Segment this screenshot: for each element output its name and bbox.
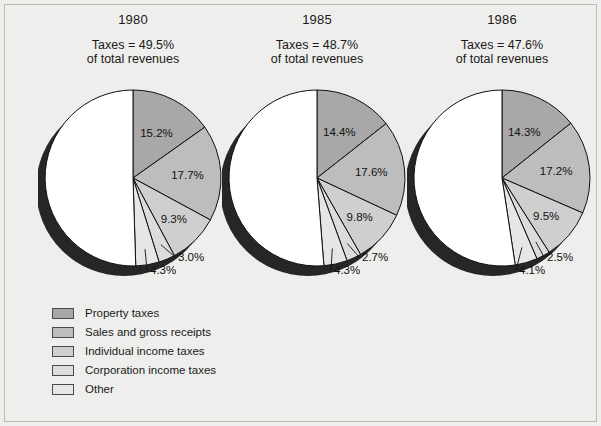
legend-swatch: [52, 327, 74, 338]
slice-value-label: 17.6%: [355, 166, 388, 178]
legend-item[interactable]: Property taxes: [52, 304, 352, 322]
panel-year-label: 1980: [38, 12, 228, 27]
panel-note-line-2: of total revenues: [38, 52, 228, 66]
legend-item[interactable]: Individual income taxes: [52, 342, 352, 360]
slice-value-label: 14.4%: [323, 126, 356, 138]
pie-panel-1986: 1986 Taxes = 47.6% of total revenues 14.…: [407, 0, 597, 300]
slice-value-label: 2.5%: [547, 251, 573, 263]
slice-value-label: 2.7%: [362, 251, 388, 263]
pie-svg: 14.3%17.2%9.5%2.5%4.1%: [407, 78, 597, 283]
slice-value-label: 4.3%: [334, 264, 360, 276]
slice-value-label: 3.0%: [178, 251, 204, 263]
panel-note-line-2: of total revenues: [222, 52, 412, 66]
pie-svg: 14.4%17.6%9.8%2.7%4.3%: [222, 78, 412, 283]
legend-item-label: Other: [85, 383, 114, 395]
slice-value-label: 9.8%: [347, 211, 373, 223]
pie-svg: 15.2%17.7%9.3%3.0%4.3%: [38, 78, 228, 283]
slice-value-label: 17.7%: [171, 169, 204, 181]
slice-value-label: 4.1%: [519, 264, 545, 276]
panel-note-line-1: Taxes = 47.6%: [407, 38, 597, 52]
panel-taxes-note: Taxes = 47.6% of total revenues: [407, 38, 597, 66]
panel-year-label: 1985: [222, 12, 412, 27]
pie-chart-figure: 1980 Taxes = 49.5% of total revenues 15.…: [0, 0, 601, 426]
legend-item[interactable]: Sales and gross receipts: [52, 323, 352, 341]
legend-item-label: Corporation income taxes: [85, 364, 216, 376]
pie-panel-1985: 1985 Taxes = 48.7% of total revenues 14.…: [222, 0, 412, 300]
panel-note-line-1: Taxes = 48.7%: [222, 38, 412, 52]
legend-item-label: Property taxes: [85, 307, 159, 319]
legend-item-label: Individual income taxes: [85, 345, 205, 357]
slice-value-label: 9.3%: [161, 213, 187, 225]
slice-value-label: 9.5%: [533, 210, 559, 222]
pie-graphic-1980: 15.2%17.7%9.3%3.0%4.3%: [38, 78, 228, 278]
legend-item[interactable]: Corporation income taxes: [52, 361, 352, 379]
legend-swatch: [52, 308, 74, 319]
slice-value-label: 17.2%: [540, 165, 573, 177]
legend-swatch: [52, 384, 74, 395]
panel-taxes-note: Taxes = 49.5% of total revenues: [38, 38, 228, 66]
panel-taxes-note: Taxes = 48.7% of total revenues: [222, 38, 412, 66]
slice-value-label: 15.2%: [140, 127, 173, 139]
pie-graphic-1986: 14.3%17.2%9.5%2.5%4.1%: [407, 78, 597, 278]
legend-item[interactable]: Other: [52, 380, 352, 398]
legend-swatch: [52, 365, 74, 376]
panel-note-line-1: Taxes = 49.5%: [38, 38, 228, 52]
panel-year-label: 1986: [407, 12, 597, 27]
legend-item-label: Sales and gross receipts: [85, 326, 211, 338]
slice-value-label: 4.3%: [150, 264, 176, 276]
legend-swatch: [52, 346, 74, 357]
slice-value-label: 14.3%: [508, 126, 541, 138]
legend: Property taxesSales and gross receiptsIn…: [52, 304, 352, 399]
panel-note-line-2: of total revenues: [407, 52, 597, 66]
pie-graphic-1985: 14.4%17.6%9.8%2.7%4.3%: [222, 78, 412, 278]
pie-panel-1980: 1980 Taxes = 49.5% of total revenues 15.…: [38, 0, 228, 300]
